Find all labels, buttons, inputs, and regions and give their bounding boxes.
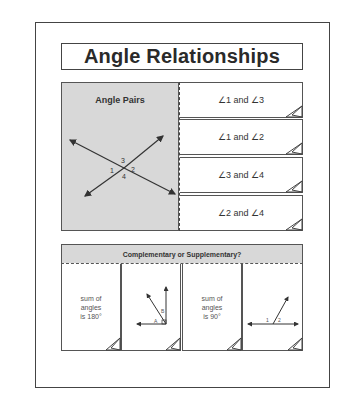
page-curl-icon [287, 337, 303, 351]
angle-label-1: 1 [110, 167, 114, 174]
flap-text: sum of angles is 180° [62, 294, 120, 321]
page-title: Angle Relationships [84, 45, 280, 68]
flap-label: ∠1 and ∠3 [218, 95, 264, 105]
angle-label-3: 3 [121, 157, 125, 164]
page-curl-icon [285, 142, 303, 155]
flap-sum-180[interactable]: sum of angles is 180° [61, 264, 121, 351]
complementary-supplementary-header: Complementary or Supplementary? [61, 244, 303, 263]
page-curl-icon [105, 337, 121, 351]
flap-angles-1-3[interactable]: ∠1 and ∠3 [180, 82, 303, 118]
angle-label-4: 4 [122, 173, 126, 180]
intersecting-lines-diagram: 3 1 2 4 [62, 83, 180, 232]
flap-label: ∠1 and ∠2 [218, 132, 264, 142]
flap-label: ∠2 and ∠4 [218, 208, 264, 218]
angle-label-b: B [161, 308, 165, 314]
flap-text: sum of angles is 90° [183, 294, 241, 321]
angle-pairs-panel: Angle Pairs 3 1 2 4 [61, 82, 179, 231]
page-curl-icon [285, 180, 303, 193]
page-curl-icon [285, 105, 303, 118]
flap-angles-2-4[interactable]: ∠2 and ∠4 [180, 195, 303, 231]
title-box: Angle Relationships [61, 43, 303, 70]
flap-angles-1-2[interactable]: ∠1 and ∠2 [180, 119, 303, 155]
flap-complementary-figure[interactable]: A B [121, 264, 181, 351]
page-curl-icon [226, 337, 242, 351]
flap-sum-90[interactable]: sum of angles is 90° [182, 264, 242, 351]
page-curl-icon [165, 337, 181, 351]
angle-label-a: A [154, 318, 158, 324]
angle-label-1: 1 [266, 317, 269, 323]
page-curl-icon [285, 218, 303, 231]
flap-label: ∠3 and ∠4 [218, 170, 264, 180]
flap-supplementary-figure[interactable]: 1 2 [242, 264, 303, 351]
angle-label-2: 2 [131, 166, 135, 173]
angle-label-2: 2 [278, 317, 281, 323]
flap-angles-3-4[interactable]: ∠3 and ∠4 [180, 157, 303, 193]
